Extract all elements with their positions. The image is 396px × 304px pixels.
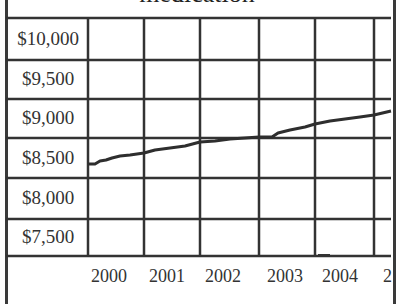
- x-tick-label: 2001: [149, 266, 185, 286]
- y-tick-label: $9,500: [8, 69, 88, 89]
- y-tick-label: $7,500: [8, 227, 88, 247]
- x-tick-label: 2003: [267, 266, 303, 286]
- y-tick-label: $9,000: [8, 108, 88, 128]
- x-tick-label: 2000: [91, 266, 127, 286]
- y-tick-label: $8,500: [8, 148, 88, 168]
- x-tick-label: 2002: [205, 266, 241, 286]
- x-tick-label: 2: [383, 266, 392, 286]
- x-tick-label: 2004: [322, 266, 358, 286]
- y-tick-label: $8,000: [8, 188, 88, 208]
- y-tick-label: $10,000: [8, 29, 88, 49]
